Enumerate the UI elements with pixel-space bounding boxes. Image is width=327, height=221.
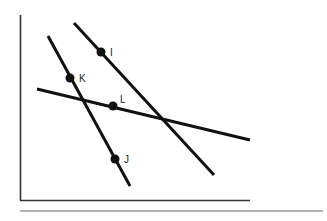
lines (37, 23, 250, 186)
point-k: K (66, 73, 87, 84)
point-j: J (111, 154, 130, 165)
point-label: I (110, 47, 113, 58)
geometry-diagram: IKLJ (0, 0, 327, 221)
point-dot (66, 74, 75, 83)
point-dot (111, 155, 120, 164)
points: IKLJ (66, 47, 130, 165)
point-dot (97, 48, 106, 57)
point-label: L (120, 94, 126, 105)
point-dot (109, 102, 118, 111)
point-label: J (124, 154, 129, 165)
line-through-I (74, 23, 214, 175)
line-through-K-J (48, 36, 130, 186)
point-label: K (79, 73, 86, 84)
